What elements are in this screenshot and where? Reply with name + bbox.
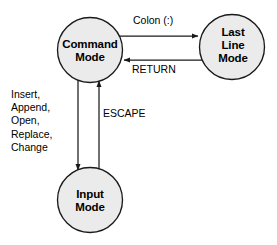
edge-label-insert-commands: Insert, Append, Open, Replace, Change: [11, 88, 73, 154]
mode-transition-diagram: Command Mode Last Line Mode Input Mode C…: [0, 0, 277, 245]
node-command-mode-circle: [58, 18, 123, 83]
edge-label-colon: Colon (:): [133, 14, 203, 27]
edge-label-return: RETURN: [132, 63, 202, 76]
node-last-line-mode-circle: [200, 15, 265, 80]
node-input-mode-circle: [58, 168, 123, 233]
edge-label-escape: ESCAPE: [103, 107, 173, 120]
